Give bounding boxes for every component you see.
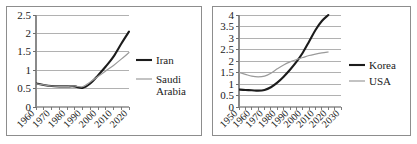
series-line-usa bbox=[239, 52, 328, 77]
series-line-iran bbox=[36, 32, 129, 88]
chart-panel-left: 00.511.522.51960197019801990200020102020… bbox=[6, 6, 202, 136]
y-tick-label: 2.5 bbox=[220, 43, 234, 55]
legend-label: Korea bbox=[369, 59, 396, 71]
series-line-saudi-arabia bbox=[36, 53, 129, 87]
chart-right-canvas: 00.511.522.533.5419501960197019801990200… bbox=[213, 7, 410, 135]
legend-label-continued: Arabia bbox=[156, 85, 186, 97]
y-tick-label: 4 bbox=[229, 9, 235, 21]
y-tick-label: 0.5 bbox=[220, 89, 234, 101]
y-tick-label: 2 bbox=[26, 27, 32, 39]
legend-label: USA bbox=[369, 75, 391, 87]
y-tick-label: 1 bbox=[26, 64, 32, 76]
y-tick-label: 1.5 bbox=[17, 45, 31, 57]
x-tick-label: 2020 bbox=[107, 108, 129, 130]
legend-label: Saudi bbox=[156, 73, 181, 85]
y-tick-label: 2 bbox=[229, 55, 235, 67]
y-tick-label: 3 bbox=[229, 32, 235, 44]
y-tick-label: 0.5 bbox=[17, 82, 31, 94]
y-tick-label: 3.5 bbox=[220, 20, 234, 32]
y-tick-label: 1.5 bbox=[220, 66, 234, 78]
chart-left: 00.511.522.51960197019801990200020102020… bbox=[7, 7, 201, 135]
y-tick-label: 2.5 bbox=[17, 9, 31, 21]
y-tick-label: 1 bbox=[229, 78, 235, 90]
chart-right: 00.511.522.533.5419501960197019801990200… bbox=[213, 7, 410, 135]
figure-root: 00.511.522.51960197019801990200020102020… bbox=[0, 0, 417, 144]
legend-label: Iran bbox=[156, 54, 174, 66]
chart-panel-right: 00.511.522.533.5419501960197019801990200… bbox=[212, 6, 411, 136]
chart-left-canvas: 00.511.522.51960197019801990200020102020… bbox=[7, 7, 201, 135]
